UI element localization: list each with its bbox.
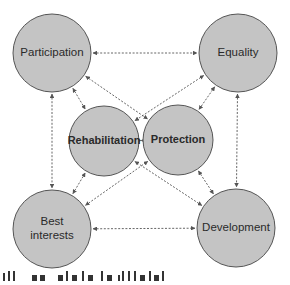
node-development: Development — [197, 189, 275, 267]
node-label: Participation — [20, 46, 83, 58]
node-label: Development — [202, 221, 271, 233]
node-label: Rehabilitation — [68, 134, 141, 146]
node-participation: Participation — [13, 14, 91, 92]
edge-best-interests-to-development — [93, 228, 195, 229]
node-label: Best — [40, 215, 64, 227]
node-label: Protection — [151, 133, 206, 145]
edge-development-to-protection — [198, 171, 213, 194]
node-label: interests — [30, 229, 74, 241]
node-equality: Equality — [199, 14, 277, 92]
edge-participation-to-rehabilitation — [73, 88, 85, 109]
node-protection: Protection — [143, 105, 213, 175]
figure-caption-cropped — [0, 268, 290, 285]
edge-best-interests-to-rehabilitation — [73, 173, 85, 194]
node-rehabilitation: Rehabilitation — [68, 106, 141, 176]
edge-equality-to-development — [237, 94, 238, 187]
cropped-caption-glyphs — [0, 269, 290, 281]
edge-equality-to-protection — [199, 87, 215, 110]
node-best-interests: Bestinterests — [13, 190, 91, 268]
node-label: Equality — [218, 46, 259, 58]
